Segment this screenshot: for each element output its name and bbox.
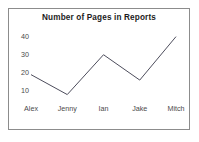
x-axis-tick-ian: Ian	[99, 104, 109, 114]
x-axis-tick-jenny: Jenny	[58, 104, 77, 114]
plot-area	[31, 33, 176, 100]
data-line-number-of-pages	[31, 37, 176, 95]
chart-figure: Number of Pages in Reports 40302010 Alex…	[0, 0, 199, 142]
chart-title: Number of Pages in Reports	[8, 13, 190, 22]
x-axis-tick-alex: Alex	[24, 104, 38, 114]
x-axis-tick-labels: AlexJennyIanJakeMitch	[20, 104, 188, 116]
y-axis-tick-labels: 40302010	[9, 31, 29, 102]
y-axis-tick-20: 20	[9, 69, 29, 77]
x-axis-tick-mitch: Mitch	[167, 104, 184, 114]
y-axis-tick-10: 10	[9, 87, 29, 95]
y-axis-tick-40: 40	[9, 33, 29, 41]
x-axis-tick-jake: Jake	[132, 104, 147, 114]
y-axis-tick-30: 30	[9, 51, 29, 59]
line-series-svg	[31, 33, 176, 100]
